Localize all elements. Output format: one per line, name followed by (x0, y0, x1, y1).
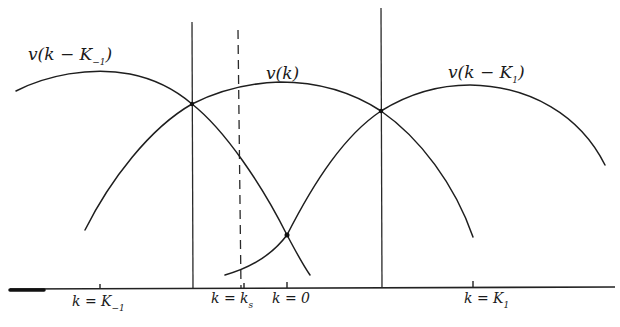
label-v-k-minus-K1: v(k − K1) (448, 62, 525, 85)
dispersion-diagram: v(k − K−1) v(k) v(k − K1) k = K−1 k = ks… (0, 0, 620, 327)
vertical-line-right (381, 8, 382, 288)
label-v-k: v(k) (266, 63, 299, 83)
tick-label-K1: k = K1 (464, 290, 509, 310)
intersection-right (379, 109, 383, 113)
vertical-line-left (192, 22, 193, 288)
k-axis (10, 287, 615, 289)
tick-label-0: k = 0 (272, 290, 310, 306)
tick-label-K-minus1: k = K−1 (72, 293, 125, 313)
curve-v-k (85, 82, 473, 237)
curve-v-k-minus-K-minus1 (16, 71, 310, 275)
intersection-left (190, 102, 194, 106)
curve-v-k-minus-K1 (225, 85, 605, 275)
tick-label-ks: k = ks (211, 290, 254, 310)
label-v-k-minus-K-minus1: v(k − K−1) (28, 44, 112, 67)
intersection-bottom (285, 233, 290, 238)
